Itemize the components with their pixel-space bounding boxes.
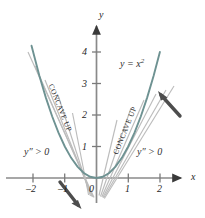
y-axis-label: y — [99, 10, 103, 20]
x-axis-label: x — [191, 172, 195, 182]
x-tick-label--1: –1 — [58, 184, 68, 194]
y-tick-label-3: 3 — [82, 79, 87, 89]
concavity-figure: y x –2 –1 0 1 2 1 2 3 4 y = x2 y″ > 0 y″… — [0, 0, 205, 218]
y-tick-label-1: 1 — [82, 142, 87, 152]
curve-equation-exponent: 2 — [141, 57, 145, 65]
curve-equation-text: y = x — [120, 58, 141, 69]
second-derivative-right-label: y″ > 0 — [137, 147, 162, 157]
x-tick-label-2: 2 — [157, 184, 162, 194]
x-tick-label-1: 1 — [125, 184, 130, 194]
tangent-left-5 — [28, 52, 94, 198]
second-derivative-left-label: y″ > 0 — [24, 147, 49, 157]
curve-equation-label: y = x2 — [120, 58, 144, 69]
y-tick-label-4: 4 — [82, 47, 87, 57]
x-tick-label-0: 0 — [89, 184, 94, 194]
tangent-lines-left — [28, 52, 94, 198]
tangent-lines-right — [99, 86, 174, 199]
x-tick-label--2: –2 — [26, 184, 36, 194]
y-tick-label-2: 2 — [82, 110, 87, 120]
